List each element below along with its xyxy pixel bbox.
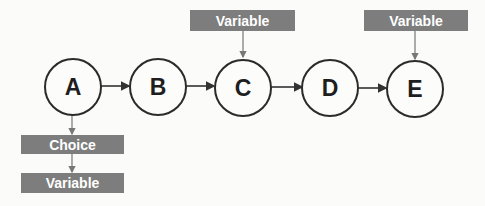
node-a: A [44,58,102,116]
node-e: E [386,60,444,118]
node-c: C [214,59,272,117]
node-d: D [301,59,359,117]
variable-box-c: Variable [190,10,295,31]
variable-box-e: Variable [364,10,468,31]
node-b: B [129,58,187,116]
variable-box-a: Variable [21,173,124,193]
choice-box: Choice [21,135,124,154]
